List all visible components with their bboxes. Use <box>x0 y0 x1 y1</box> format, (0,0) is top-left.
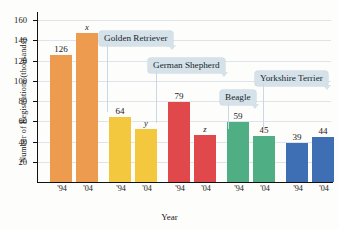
bar-value-label: 126 <box>54 44 68 54</box>
x-tick-label: '04 <box>142 184 152 193</box>
x-tick-label: '94 <box>175 184 185 193</box>
x-tick-label: '04 <box>83 184 93 193</box>
bar[interactable]: 39 <box>286 143 308 182</box>
y-tick-label: 140 <box>14 35 27 45</box>
x-axis-label: Year <box>0 212 339 222</box>
x-tick-label: '04 <box>319 184 329 193</box>
dog-registrations-bar-chart: Number of Registrations (thousands) 2040… <box>0 0 339 229</box>
y-tick-label: 120 <box>14 56 27 66</box>
bar[interactable]: 44 <box>312 137 334 182</box>
callout-label: Beagle <box>220 90 256 105</box>
x-tick-label: '94 <box>293 184 303 193</box>
x-axis-ticks: '94'04'94'04'94'04'94'04'94'04 <box>38 184 331 198</box>
y-tick-label: 60 <box>18 116 27 126</box>
plot-area: 20406080100120140160 126x64y79z59453944 <box>37 12 331 182</box>
bar-value-label: 59 <box>234 111 243 121</box>
bar[interactable]: 126 <box>50 55 72 183</box>
bar-value-label: z <box>203 124 206 134</box>
bar-series: 126x64y79z59453944 <box>38 12 331 182</box>
callout-leader-line <box>156 71 157 123</box>
y-tick-label: 40 <box>18 137 27 147</box>
bar[interactable]: 64 <box>109 117 131 182</box>
bar-value-label: 79 <box>175 91 184 101</box>
bar[interactable]: z <box>194 135 216 182</box>
y-tick-label: 20 <box>18 157 27 167</box>
bar-value-label: 64 <box>116 106 125 116</box>
bar-value-label: y <box>144 118 148 128</box>
x-tick-label: '94 <box>234 184 244 193</box>
callout-leader-line <box>263 84 264 132</box>
callout-label: Yorkshire Terrier <box>255 71 328 86</box>
y-tick-label: 160 <box>14 15 27 25</box>
callout-leader-line <box>107 44 108 112</box>
bar[interactable]: 79 <box>168 102 190 182</box>
bar[interactable]: 59 <box>227 122 249 182</box>
bar[interactable]: x <box>76 33 98 182</box>
bar[interactable]: 45 <box>253 136 275 182</box>
callout-leader-line <box>228 103 229 129</box>
bar-value-label: x <box>85 22 89 32</box>
y-tick-label: 100 <box>14 76 27 86</box>
bar-value-label: 44 <box>319 126 328 136</box>
bar-value-label: 39 <box>293 132 302 142</box>
x-tick-label: '94 <box>116 184 126 193</box>
x-tick-label: '94 <box>57 184 67 193</box>
callout-label: Golden Retriever <box>99 31 173 46</box>
x-tick-label: '04 <box>201 184 211 193</box>
bar[interactable]: y <box>135 129 157 182</box>
callout-label: German Shepherd <box>148 58 225 73</box>
x-tick-label: '04 <box>260 184 270 193</box>
y-tick-label: 80 <box>18 96 27 106</box>
